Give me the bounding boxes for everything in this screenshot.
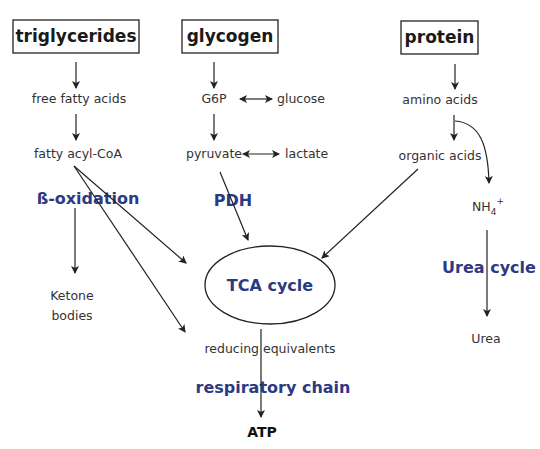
arrow-organicacids-tca [322, 169, 418, 258]
g6p-label: G6P [201, 91, 227, 106]
organic-acids-label: organic acids [399, 148, 482, 163]
nh4-label: NH4+ [472, 196, 504, 217]
glycogen-label: glycogen [187, 26, 274, 46]
urea-cycle-label: Urea cycle [442, 258, 536, 277]
respiratory-chain-label: respiratory chain [196, 378, 351, 397]
atp-label: ATP [247, 424, 277, 440]
arrow-acylcoa-tca [74, 166, 186, 263]
nh4-subscript: 4 [491, 207, 497, 217]
amino-acids-label: amino acids [402, 92, 477, 107]
nh4-superscript: + [496, 196, 504, 206]
free-fatty-acids-label: free fatty acids [32, 91, 126, 106]
nh4-text: NH [472, 199, 491, 214]
triglycerides-box: triglycerides [13, 20, 139, 53]
ketone-label-line1: Ketone [50, 288, 94, 303]
ketone-label-line2: bodies [51, 308, 92, 323]
beta-oxidation-label: ß-oxidation [37, 189, 140, 208]
pyruvate-label: pyruvate [186, 146, 242, 161]
metabolic-pathway-diagram: triglycerides glycogen protein free fatt… [0, 0, 540, 449]
lactate-label: lactate [285, 146, 328, 161]
reducing-equivalents-label: reducing equivalents [204, 341, 335, 356]
tca-cycle-label: TCA cycle [227, 276, 313, 295]
tca-cycle-node: TCA cycle [205, 246, 335, 324]
pdh-label: PDH [214, 191, 252, 210]
protein-box: protein [401, 21, 478, 54]
fatty-acyl-coa-label: fatty acyl-CoA [34, 146, 123, 161]
protein-label: protein [405, 27, 475, 47]
triglycerides-label: triglycerides [15, 26, 136, 46]
glucose-label: glucose [277, 91, 325, 106]
glycogen-box: glycogen [182, 20, 278, 53]
urea-label: Urea [471, 331, 500, 346]
